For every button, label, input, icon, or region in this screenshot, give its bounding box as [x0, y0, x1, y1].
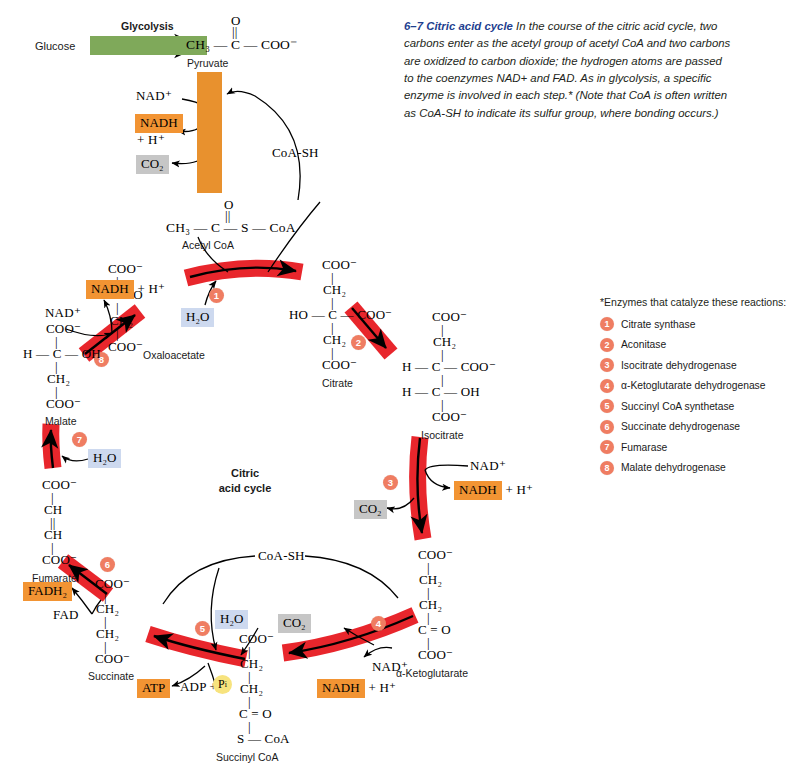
legend-item-5: 5 Succinyl CoA synthetase [600, 399, 740, 413]
citrate-label: Citrate [322, 377, 353, 389]
legend-title: *Enzymes that catalyze these reactions: [600, 296, 740, 308]
plus-h-step3: + H⁺ [506, 482, 534, 497]
nad-plus-step4: NAD⁺ [372, 660, 408, 674]
water-step1-label: H₂O [181, 308, 214, 327]
legend-item-7: 7 Fumarase [600, 440, 740, 454]
enzyme-name-8: Malate dehydrogenase [621, 462, 726, 473]
enzyme-badge-step-5: 5 [195, 621, 210, 636]
figure-number: 6–7 [404, 20, 423, 32]
coash-top-label: CoA-SH [272, 146, 319, 160]
co2-step4-chip: CO₂ [278, 613, 311, 633]
enzyme-name-5: Succinyl CoA synthetase [621, 401, 734, 412]
citrate-row-4: COO⁻ [322, 358, 357, 372]
red-arrow-step-5 [148, 634, 246, 659]
enzyme-legend: *Enzymes that catalyze these reactions: … [600, 296, 740, 481]
step4-to-nadh-arrow [364, 647, 392, 657]
nadh-step4-label: NADH [317, 679, 365, 698]
plus-h-step8: + H⁺ [138, 281, 166, 296]
acetylcoa-formula: CH₃ — C — S — CoA [166, 221, 296, 235]
phosphate-subscript: i [225, 680, 227, 689]
water-step7-chip: H₂O [88, 448, 121, 468]
enzyme-badge-2: 2 [600, 338, 614, 352]
succinate-label: Succinate [88, 670, 134, 682]
enzyme-name-3: Isocitrate dehydrogenase [621, 360, 737, 371]
figure-title: Citric acid cycle [426, 20, 513, 32]
succinate-row-3: COO⁻ [95, 652, 130, 666]
pyruvate-formula: CH₃ — C — COO⁻ [186, 38, 297, 52]
enzyme-name-6: Succinate dehydrogenase [621, 421, 740, 432]
akg-row-0: COO⁻ [418, 548, 453, 562]
malate-row-3: COO⁻ [46, 397, 81, 411]
nad-to-step3-line [425, 465, 468, 470]
nadh-step3-chip: NADH+ H⁺ [454, 480, 533, 500]
fumarate-row-0: COO⁻ [42, 478, 77, 492]
cycle-center-line2: acid cycle [205, 481, 285, 496]
legend-item-3: 3 Isocitrate dehydrogenase [600, 358, 740, 372]
nadh-step3-label: NADH [454, 481, 502, 500]
enzyme-badge-8: 8 [600, 461, 614, 475]
citrate-row-2: HO — C — COO⁻ [289, 308, 393, 322]
coash-arc-left [163, 556, 255, 604]
plus-h-step4: + H⁺ [369, 680, 397, 695]
oxaloacetate-row-2: CH₂ [110, 314, 133, 328]
enzyme-badge-step-7: 7 [72, 432, 87, 447]
succoa-row-2: CH₂ [240, 682, 263, 696]
legend-item-4: 4 α-Ketoglutarate dehydrogenase [600, 379, 740, 393]
enzyme-badge-step-1: 1 [209, 288, 224, 303]
isocitrate-label: Isocitrate [421, 429, 464, 441]
citrate-row-3: CH₂ [323, 333, 346, 347]
nad-plus-step3: NAD⁺ [470, 459, 506, 473]
nadh-pdh-chip: NADH [135, 113, 183, 133]
succinate-row-0: COO⁻ [95, 577, 130, 591]
nad-plus-pdh: NAD⁺ [136, 89, 172, 103]
cycle-center-label: Citric acid cycle [205, 466, 285, 496]
malate-label: Malate [45, 415, 77, 427]
malate-row-2: CH₂ [47, 372, 70, 386]
glucose-label: Glucose [35, 40, 75, 52]
enzyme-badge-1: 1 [600, 317, 614, 331]
coash-out-curve [268, 202, 320, 272]
legend-item-1: 1 Citrate synthase [600, 317, 740, 331]
nadh-step8-chip: NADH+ H⁺ [86, 279, 165, 299]
nadh-step4-chip: NADH+ H⁺ [317, 678, 396, 698]
nadh-pdh-label: NADH [135, 114, 183, 133]
legend-item-6: 6 Succinate dehydrogenase [600, 420, 740, 434]
succinate-row-2: CH₂ [96, 627, 119, 641]
fad-label: FAD [53, 608, 79, 622]
co2-pdh-label: CO₂ [136, 155, 169, 174]
fumarate-row-3: COO⁻ [42, 553, 77, 567]
coash-arc-right [305, 556, 398, 598]
enzyme-badge-step-6: 6 [100, 557, 115, 572]
pyruvate-label: Pyruvate [187, 57, 228, 69]
citrate-row-1: CH₂ [323, 283, 346, 297]
fadh2-chip: FADH₂ [23, 581, 72, 601]
acetylcoa-label: Acetyl CoA [182, 239, 234, 251]
succoa-row-0: COO⁻ [239, 632, 274, 646]
enzyme-name-4: α-Ketoglutarate dehydrogenase [621, 380, 766, 391]
enzyme-badge-step-3: 3 [383, 475, 398, 490]
malate-row-0: COO⁻ [46, 322, 81, 336]
enzyme-badge-5: 5 [600, 399, 614, 413]
succinate-row-1: CH₂ [96, 602, 119, 616]
fadh2-label: FADH₂ [23, 582, 72, 601]
water-to-step7-arrow [62, 456, 88, 461]
adp-label: ADP + [180, 680, 217, 694]
red-arrow-step-3 [417, 437, 423, 539]
citrate-row-0: COO⁻ [322, 258, 357, 272]
enzyme-badge-4: 4 [600, 379, 614, 393]
isocitrate-row-4: COO⁻ [432, 410, 467, 424]
enzyme-badge-step-4: 4 [371, 616, 386, 631]
co2-step3-chip: CO₂ [354, 499, 387, 519]
enzyme-name-2: Aconitase [621, 339, 666, 350]
akg-row-3: C = O [418, 623, 451, 637]
coash-bottom-label: CoA-SH [258, 549, 305, 563]
co2-step4-label: CO₂ [278, 614, 311, 633]
water-step7-label: H₂O [88, 449, 121, 468]
enzyme-name-1: Citrate synthase [621, 319, 695, 330]
malate-row-1: H — C — OH [23, 347, 101, 361]
glycolysis-label: Glycolysis [121, 20, 174, 32]
step3-to-nadh-arrow [425, 470, 450, 488]
akg-row-1: CH₂ [419, 573, 442, 587]
succinylcoa-label: Succinyl CoA [216, 751, 278, 763]
